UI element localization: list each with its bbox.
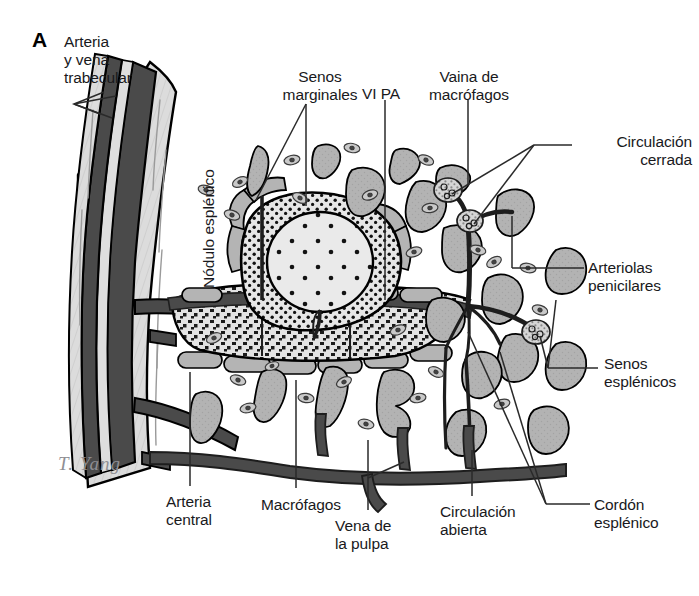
- label-vl-pa: VI PA: [362, 85, 400, 103]
- panel-letter-a: A: [32, 28, 47, 52]
- label-circulacion-abierta: Circulación abierta: [440, 503, 516, 539]
- label-arteria-y-vena-trabecular: Arteria y vena trabecular: [64, 33, 132, 87]
- label-arteriolas-penicilares: Arteriolas penicilares: [588, 259, 661, 295]
- label-circulacion-cerrada: Circulación cerrada: [578, 133, 692, 169]
- label-vaina-de-macrofagos: Vaina de macrófagos: [414, 68, 524, 104]
- label-arteria-central: Arteria central: [166, 493, 212, 529]
- label-cordon-esplenico: Cordón esplénico: [594, 496, 659, 532]
- label-nodulo-esplenico: Nódulo esplénico: [200, 169, 218, 288]
- spleen-circulation-figure: A Arteria y vena trabecular Senos margin…: [0, 0, 699, 596]
- label-macrofagos: Macrófagos: [261, 496, 341, 514]
- label-senos-esplenicos: Senos esplénicos: [604, 355, 676, 391]
- label-senos-marginales: Senos marginales: [272, 68, 368, 104]
- label-vena-de-la-pulpa: Vena de la pulpa: [335, 517, 391, 553]
- artist-signature: T. Yang: [58, 453, 121, 475]
